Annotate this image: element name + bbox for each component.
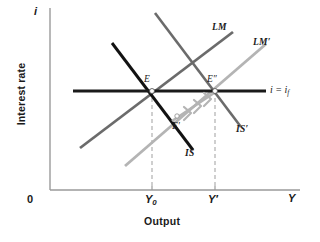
- tick-label-y0: Y0: [145, 193, 157, 207]
- curve-label-is-prime-text: IS: [236, 124, 245, 134]
- curve-label-lm-prime-text: LM: [253, 37, 268, 47]
- point-label-E-double-prime: E″: [207, 74, 217, 84]
- curve-label-world-rate-text: i = i: [270, 84, 287, 95]
- point-label-E-double-prime-mark: ″: [213, 74, 217, 84]
- point-E-prime: [175, 114, 179, 118]
- origin-label: 0: [27, 193, 33, 205]
- point-label-E-prime-mark: ′: [178, 121, 180, 131]
- tick-label-y0-sub: 0: [152, 198, 156, 207]
- tick-label-yprime-mark: ′: [215, 193, 218, 205]
- curve-label-is-prime: IS′: [236, 124, 248, 134]
- curve-label-world-rate-sub: f: [287, 89, 289, 97]
- x-axis-symbol: Y: [288, 192, 295, 204]
- curve-label-lm-prime: LM′: [253, 37, 271, 47]
- tick-label-yprime: Y′: [208, 193, 218, 205]
- point-label-E-prime: E′: [172, 121, 180, 131]
- y-axis-symbol: i: [34, 5, 37, 17]
- curve-label-is: IS: [185, 148, 194, 158]
- islm-figure: i Interest rate 0 Y0 Y′ Y Output LM LM′ …: [0, 0, 320, 242]
- plot-area: [0, 0, 320, 242]
- curve-label-is-prime-mark: ′: [245, 124, 248, 134]
- point-label-E: E: [144, 74, 150, 84]
- curve-label-world-rate: i = if: [270, 84, 289, 97]
- y-axis-title: Interest rate: [15, 46, 27, 142]
- point-E-double-prime: [213, 89, 218, 94]
- x-axis-title: Output: [144, 215, 180, 227]
- curve-label-lm: LM: [212, 22, 227, 32]
- point-E: [150, 89, 155, 94]
- curve-label-lm-prime-mark: ′: [268, 37, 271, 47]
